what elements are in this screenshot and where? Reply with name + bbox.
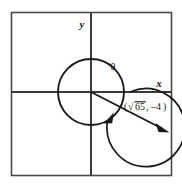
point-label-close-paren: ): [163, 101, 166, 113]
coordinate-separator: ,: [146, 101, 149, 112]
terminal-ray-arrowhead: [156, 123, 170, 133]
theta-label: θ: [110, 61, 115, 72]
math-figure: y x θ ( √ 65 , –4 ): [0, 0, 182, 189]
coordinate-plane-diagram: y x θ ( √ 65 , –4 ): [0, 0, 182, 189]
point-coordinate-label: ( √ 65 , –4 ): [124, 101, 166, 113]
radical-sign: √: [128, 101, 134, 112]
y-axis-label: y: [78, 18, 85, 30]
x-axis-label: x: [155, 77, 162, 89]
angle-arc-arrowhead: [104, 113, 114, 124]
radicand-value: 65: [135, 101, 145, 112]
point-y-value: –4: [150, 101, 161, 112]
